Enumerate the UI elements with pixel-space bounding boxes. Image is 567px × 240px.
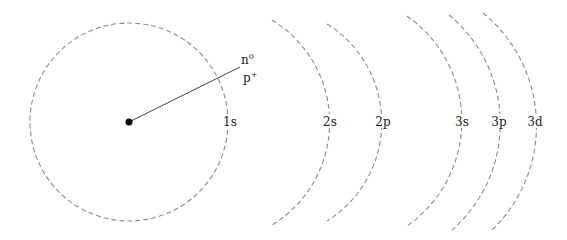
atom-shell-diagram: n0 p+ 1s 2s 2p 3s 3p 3d: [0, 0, 567, 240]
nucleus-pointer-line: [129, 67, 240, 122]
shell-label-2p: 2p: [375, 115, 391, 129]
neutron-label: n0: [241, 52, 254, 67]
nucleus-dot: [126, 119, 133, 126]
shell-label-3p: 3p: [491, 115, 507, 129]
proton-label: p+: [243, 70, 257, 85]
shell-2s-arc: [272, 20, 330, 225]
shell-label-3d: 3d: [527, 115, 543, 129]
shell-label-3s: 3s: [455, 115, 469, 129]
shell-label-2s: 2s: [323, 115, 337, 129]
shell-3s-arc: [407, 16, 462, 226]
shell-label-1s: 1s: [223, 115, 237, 129]
